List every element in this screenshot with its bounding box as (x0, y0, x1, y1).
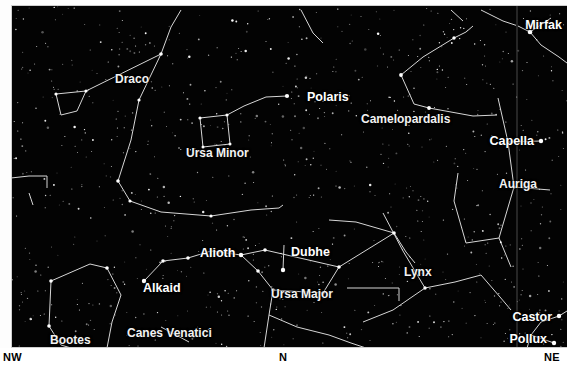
constellation-label-auriga: Auriga (499, 177, 537, 191)
compass-label-nw: NW (3, 351, 22, 363)
star-chart: Polaris Mirfak Capella Castor Pollux Dub… (0, 0, 567, 371)
star-label-alioth: Alioth (200, 246, 235, 260)
star-label-castor: Castor (512, 310, 552, 324)
star-label-pollux: Pollux (509, 332, 547, 346)
constellation-label-canes-venatici: Canes Venatici (127, 326, 212, 340)
constellation-label-ursa-major: Ursa Major (271, 287, 333, 301)
star-label-dubhe: Dubhe (291, 245, 330, 259)
compass-label-ne: NE (544, 351, 560, 363)
constellation-label-bootes: Bootes (50, 333, 91, 347)
star-label-capella: Capella (490, 134, 534, 148)
constellation-label-ursa-minor: Ursa Minor (186, 146, 249, 160)
star-label-polaris: Polaris (307, 90, 349, 104)
star-label-alkaid: Alkaid (143, 281, 181, 295)
sky-panel: Polaris Mirfak Capella Castor Pollux Dub… (11, 5, 567, 348)
constellation-label-camelopardalis: Camelopardalis (361, 112, 450, 126)
star-label-mirfak: Mirfak (525, 18, 562, 32)
constellation-label-draco: Draco (115, 72, 149, 86)
constellation-label-lynx: Lynx (404, 265, 432, 279)
compass-label-n: N (279, 351, 287, 363)
